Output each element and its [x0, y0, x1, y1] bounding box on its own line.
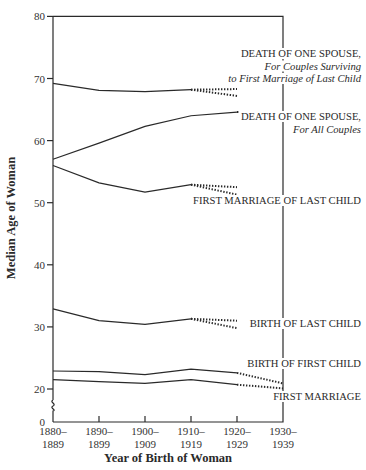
projection-dotted-line — [191, 89, 237, 90]
series-label: For All Couples — [292, 124, 361, 135]
series-label: to First Marriage of Last Child — [228, 73, 361, 84]
series-label: BIRTH OF FIRST CHILD — [247, 358, 361, 369]
series-labels: DEATH OF ONE SPOUSE,For Couples Survivin… — [192, 48, 363, 402]
series-line — [53, 165, 191, 192]
y-tick-label: 50 — [34, 197, 46, 209]
x-tick-label: 1920– — [223, 425, 251, 437]
x-tick-label: 1919 — [180, 438, 203, 450]
series-label: BIRTH OF LAST CHILD — [250, 318, 362, 329]
x-tick-label: 1900– — [131, 425, 159, 437]
x-tick-label: 1910– — [177, 425, 205, 437]
y-tick-label: 60 — [34, 135, 46, 147]
series-lines — [53, 83, 283, 388]
y-tick-label: 70 — [34, 73, 46, 85]
y-axis-line — [52, 16, 54, 422]
x-tick-label: 1909 — [134, 438, 157, 450]
series-label: FIRST MARRIAGE — [273, 391, 361, 402]
series-line — [53, 309, 191, 325]
series-label: For Couples Surviving — [263, 61, 361, 72]
y-tick-label: 30 — [34, 321, 46, 333]
series-line — [53, 112, 237, 159]
x-tick-label: 1930– — [269, 425, 297, 437]
x-tick-label: 1939 — [272, 438, 295, 450]
series-label: DEATH OF ONE SPOUSE, — [241, 48, 361, 59]
x-tick-label: 1889 — [42, 438, 65, 450]
series-line — [53, 83, 191, 91]
series-line — [53, 369, 237, 375]
projection-dotted-line — [191, 90, 237, 96]
x-tick-label: 1890– — [85, 425, 113, 437]
series-label: FIRST MARRIAGE OF LAST CHILD — [193, 195, 361, 206]
series-line — [53, 380, 237, 385]
x-tick-label: 1899 — [88, 438, 111, 450]
y-tick-label: 20 — [34, 383, 46, 395]
series-label: DEATH OF ONE SPOUSE, — [241, 111, 361, 122]
life-cycle-line-chart: 0203040506070801880–18891890–18991900–19… — [0, 0, 366, 470]
y-tick-label: 40 — [34, 259, 46, 271]
y-tick-label: 80 — [34, 10, 46, 22]
x-tick-label: 1929 — [226, 438, 249, 450]
y-axis-title: Median Age of Woman — [4, 157, 18, 279]
projection-dotted-line — [237, 385, 283, 389]
x-axis-title: Year of Birth of Woman — [104, 451, 232, 465]
projection-dotted-line — [237, 373, 283, 384]
x-tick-label: 1880– — [39, 425, 67, 437]
